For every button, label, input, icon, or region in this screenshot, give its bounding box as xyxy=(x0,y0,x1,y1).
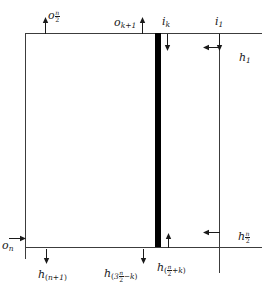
label-h-3n-half-minus-k-fraction: n2 xyxy=(119,270,124,283)
label-i-k: ik xyxy=(162,12,170,29)
label-h-n-half-plus-k-sub: (n2+k) xyxy=(164,263,186,276)
label-o-n-half: on2 xyxy=(48,6,60,22)
diagram-canvas: on2 ok+1 ik i1 h1 xyxy=(0,0,270,285)
label-o-n: on xyxy=(2,236,13,253)
arrow-left-h-1 xyxy=(203,43,220,52)
label-h-n-half-base: h xyxy=(238,230,245,243)
arrow-down-h-n-plus-1 xyxy=(42,249,51,264)
label-o-n-sub: n xyxy=(9,245,14,253)
label-h-n-half-plus-k: h(n2+k) xyxy=(157,258,186,276)
label-h-n-half-plus-k-fraction: n2 xyxy=(167,264,172,277)
arrow-left-h-n-half xyxy=(203,228,220,237)
label-o-k-plus-1: ok+1 xyxy=(114,13,136,30)
label-i-1: i1 xyxy=(215,12,223,29)
label-h-1-sub: 1 xyxy=(246,57,251,65)
label-i-1-sub: 1 xyxy=(219,21,224,29)
arrow-down-i-k xyxy=(163,34,172,51)
label-o-k-plus-1-base: o xyxy=(114,16,121,29)
bottom-boundary-line xyxy=(25,247,262,248)
label-h-n-plus-1: h(n+1) xyxy=(38,265,67,282)
label-h-n-plus-1-sub: (n+1) xyxy=(45,274,67,282)
label-h-n-half-fraction: n2 xyxy=(245,231,250,244)
label-h-1: h1 xyxy=(239,48,251,65)
left-boundary-line xyxy=(25,33,26,259)
label-h-3n-half-minus-k-base: h xyxy=(104,267,111,280)
thick-vertical-bar xyxy=(155,33,161,247)
label-o-n-base: o xyxy=(2,239,9,252)
label-i-k-sub: k xyxy=(166,21,171,29)
label-h-n-half: hn2 xyxy=(238,227,250,243)
right-inner-line xyxy=(219,33,220,273)
label-o-k-plus-1-sub: k+1 xyxy=(121,22,137,30)
label-h-1-base: h xyxy=(239,51,246,64)
arrow-up-o-k-plus-1 xyxy=(138,17,147,34)
label-h-n-half-plus-k-base: h xyxy=(157,261,164,274)
arrow-up-h-n-half-plus-k xyxy=(164,233,173,248)
label-o-n-half-base: o xyxy=(48,9,55,22)
label-h-3n-half-minus-k: h(3n2−k) xyxy=(104,264,137,282)
label-o-n-half-fraction: n2 xyxy=(55,10,60,23)
label-h-n-plus-1-base: h xyxy=(38,268,45,281)
label-h-3n-half-minus-k-sub: (3n2−k) xyxy=(111,269,137,282)
arrow-down-h-3n-half-minus-k xyxy=(139,249,148,264)
